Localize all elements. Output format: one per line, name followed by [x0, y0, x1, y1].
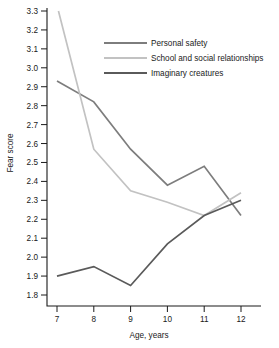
series-line-imaginary-creatures — [57, 200, 241, 285]
x-tick-label: 11 — [200, 315, 209, 324]
legend-label-2: School and social relationships — [151, 54, 263, 63]
legend-label-3: Imaginary creatures — [151, 69, 223, 78]
series-line-personal-safety — [57, 81, 241, 215]
y-tick-label: 3.1 — [27, 45, 39, 54]
y-tick-label: 2.7 — [27, 121, 39, 130]
chart-axes — [47, 8, 261, 306]
y-tick-label: 2.0 — [27, 253, 39, 262]
x-tick-label: 12 — [236, 315, 246, 324]
series-line-school-and-social-relationships — [58, 11, 241, 215]
y-tick-label: 3.2 — [27, 26, 39, 35]
x-tick-label: 7 — [55, 315, 60, 324]
y-tick-label: 2.9 — [27, 83, 39, 92]
y-tick-label: 2.2 — [27, 215, 39, 224]
y-tick-label: 2.4 — [27, 177, 39, 186]
y-tick-label: 2.5 — [27, 158, 39, 167]
y-axis-title: Fear score — [6, 133, 15, 173]
fear-score-line-chart: 1.81.92.02.12.22.32.42.52.62.72.82.93.03… — [0, 0, 279, 348]
y-tick-label: 2.1 — [27, 234, 39, 243]
x-tick-label: 8 — [92, 315, 97, 324]
y-tick-label: 3.3 — [27, 7, 39, 16]
y-tick-label: 1.9 — [27, 272, 39, 281]
y-tick-label: 2.3 — [27, 196, 39, 205]
y-tick-label: 3.0 — [27, 64, 39, 73]
x-axis-title: Age, years — [129, 331, 168, 340]
y-tick-label: 2.6 — [27, 140, 39, 149]
y-tick-label: 1.8 — [27, 291, 39, 300]
chart-canvas: 1.81.92.02.12.22.32.42.52.62.72.82.93.03… — [0, 0, 279, 348]
x-tick-label: 10 — [163, 315, 173, 324]
legend-label-1: Personal safety — [151, 39, 208, 48]
x-tick-label: 9 — [128, 315, 133, 324]
y-tick-label: 2.8 — [27, 102, 39, 111]
